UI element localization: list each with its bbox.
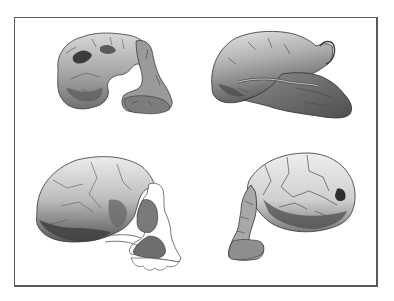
skull-illustration-bottom-left: [31, 154, 185, 276]
figure-description: Plate of four hominin skull illustration…: [0, 0, 1, 1]
skull-drawing-4: [219, 151, 359, 264]
skull-drawing-1: [52, 29, 176, 117]
skull-illustration-top-right: [208, 28, 356, 124]
skull-illustration-bottom-right: [219, 151, 359, 264]
skull-drawing-3: [31, 154, 185, 276]
skull-drawing-2: [208, 28, 356, 124]
skull-illustration-top-left: [52, 29, 176, 117]
